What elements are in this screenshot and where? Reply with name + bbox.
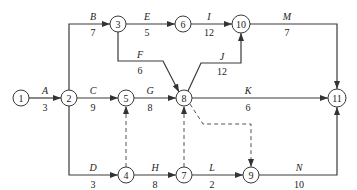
activity-f-arrow bbox=[118, 32, 179, 92]
activity-d-name: D bbox=[88, 162, 97, 173]
activity-n-name: N bbox=[295, 162, 304, 173]
node-1: 1 bbox=[13, 90, 29, 106]
node-6: 6 bbox=[175, 16, 191, 32]
activity-h-name: H bbox=[150, 162, 159, 173]
node-8-label: 8 bbox=[182, 93, 187, 104]
activity-b-name: B bbox=[90, 11, 96, 22]
node-4: 4 bbox=[118, 167, 134, 183]
node-2-label: 2 bbox=[67, 93, 72, 104]
node-5: 5 bbox=[118, 90, 134, 106]
node-11: 11 bbox=[328, 89, 346, 107]
activity-n-duration: 10 bbox=[294, 179, 304, 190]
activity-m-arrow bbox=[250, 24, 337, 89]
node-1-label: 1 bbox=[19, 93, 24, 104]
activity-l-duration: 2 bbox=[210, 179, 215, 190]
activity-k-name: K bbox=[244, 85, 253, 96]
node-8: 8 bbox=[176, 90, 192, 106]
activity-k-duration: 6 bbox=[246, 102, 251, 113]
node-10: 10 bbox=[232, 15, 250, 33]
node-2: 2 bbox=[61, 90, 77, 106]
activity-g-name: G bbox=[146, 85, 153, 96]
activity-l-name: L bbox=[208, 162, 215, 173]
activity-d-duration: 3 bbox=[91, 179, 96, 190]
activity-c-duration: 9 bbox=[91, 102, 96, 113]
activity-e-name: E bbox=[143, 11, 150, 22]
node-6-label: 6 bbox=[181, 19, 186, 30]
activity-b-duration: 7 bbox=[91, 27, 96, 38]
node-10-label: 10 bbox=[236, 19, 246, 30]
dummy-8-9-arrow bbox=[190, 104, 251, 167]
activity-j-name: J bbox=[220, 51, 225, 62]
activity-labels: A 3 B 7 C 9 D 3 E 5 F 6 G 8 H 8 I 12 J 1… bbox=[41, 11, 304, 190]
node-4-label: 4 bbox=[124, 170, 129, 181]
activity-b-arrow bbox=[69, 24, 110, 90]
activity-h-duration: 8 bbox=[153, 179, 158, 190]
activity-g-duration: 8 bbox=[148, 102, 153, 113]
node-3: 3 bbox=[110, 16, 126, 32]
network-diagram: A 3 B 7 C 9 D 3 E 5 F 6 G 8 H 8 I 12 J 1… bbox=[0, 0, 357, 190]
activity-j-duration: 12 bbox=[217, 66, 227, 77]
node-11-label: 11 bbox=[332, 93, 342, 104]
node-5-label: 5 bbox=[124, 93, 129, 104]
activity-c-name: C bbox=[90, 85, 97, 96]
node-3-label: 3 bbox=[116, 19, 121, 30]
activity-i-name: I bbox=[206, 11, 211, 22]
activity-a-duration: 3 bbox=[43, 102, 48, 113]
activity-f-name: F bbox=[136, 49, 144, 60]
activity-a-name: A bbox=[41, 85, 49, 96]
activity-e-duration: 5 bbox=[145, 27, 150, 38]
activity-j-arrow bbox=[188, 33, 241, 91]
node-9: 9 bbox=[243, 167, 259, 183]
node-7: 7 bbox=[176, 167, 192, 183]
activity-f-duration: 6 bbox=[138, 65, 143, 76]
activity-m-duration: 7 bbox=[285, 27, 290, 38]
node-7-label: 7 bbox=[182, 170, 187, 181]
activity-i-duration: 12 bbox=[204, 27, 214, 38]
activity-m-name: M bbox=[282, 11, 292, 22]
node-9-label: 9 bbox=[249, 170, 254, 181]
